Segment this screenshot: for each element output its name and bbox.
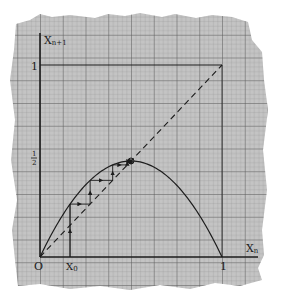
cobweb-diagram: Xn+1 1 1 2 O X0 1 Xn	[0, 0, 281, 300]
y-tick-half-den: 2	[32, 159, 36, 167]
y-tick-half-num: 1	[32, 150, 36, 158]
y-tick-one: 1	[31, 60, 38, 73]
origin-label: O	[34, 260, 43, 273]
x-tick-one: 1	[220, 260, 227, 273]
